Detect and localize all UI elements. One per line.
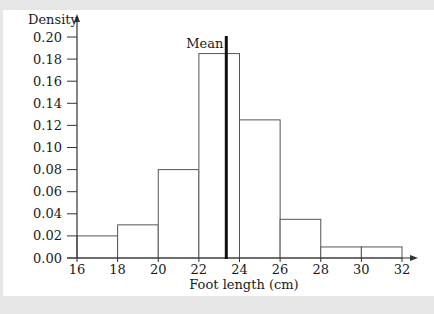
histogram-bar — [77, 236, 118, 258]
x-tick-label: 26 — [272, 262, 289, 277]
x-tick-label: 20 — [150, 262, 167, 277]
histogram-chart: 0.000.020.040.060.080.100.120.140.160.18… — [0, 0, 434, 314]
x-tick-label: 24 — [231, 262, 248, 277]
histogram-bar — [118, 225, 159, 258]
x-tick-label: 32 — [394, 262, 411, 277]
y-axis-label: Density — [28, 12, 79, 27]
y-axis: 0.000.020.040.060.080.100.120.140.160.18… — [33, 14, 80, 266]
y-tick-label: 0.00 — [33, 251, 62, 266]
histogram-bar — [158, 170, 199, 258]
histogram-bar — [361, 247, 402, 258]
y-tick-label: 0.20 — [33, 30, 62, 45]
y-tick-label: 0.18 — [33, 52, 62, 67]
y-tick-label: 0.14 — [33, 96, 62, 111]
y-tick-label: 0.08 — [33, 162, 62, 177]
x-tick-label: 28 — [312, 262, 329, 277]
x-tick-label: 30 — [353, 262, 370, 277]
y-tick-label: 0.04 — [33, 206, 62, 221]
x-axis-label: Foot length (cm) — [189, 277, 298, 292]
histogram-bar — [280, 219, 321, 258]
y-tick-label: 0.06 — [33, 184, 62, 199]
histogram-bar — [199, 54, 240, 258]
x-tick-label: 16 — [69, 262, 86, 277]
x-tick-label: 22 — [191, 262, 208, 277]
x-axis: 161820222426283032 — [67, 255, 418, 277]
y-tick-label: 0.12 — [33, 118, 62, 133]
histogram-bars — [77, 54, 402, 258]
y-tick-label: 0.02 — [33, 228, 62, 243]
histogram-bar — [240, 120, 281, 258]
x-axis-arrow-icon — [410, 255, 418, 261]
histogram-bar — [321, 247, 362, 258]
mean-label: Mean — [186, 36, 224, 51]
y-tick-label: 0.16 — [33, 74, 62, 89]
y-tick-label: 0.10 — [33, 140, 62, 155]
x-tick-label: 18 — [109, 262, 126, 277]
